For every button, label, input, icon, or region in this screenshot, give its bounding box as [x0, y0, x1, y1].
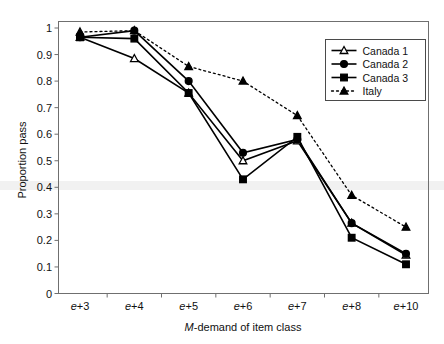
x-axis-title: M-demand of item class: [185, 321, 302, 333]
legend-label: Canada 3: [363, 72, 409, 84]
x-tick-label: e+10: [394, 300, 419, 312]
y-tick-label: 0.6: [37, 128, 52, 140]
y-tick-label: 0.8: [37, 75, 52, 87]
data-point-canada-2: [348, 220, 355, 227]
x-tick-label: e+7: [288, 300, 307, 312]
highlight-band: [0, 181, 444, 190]
x-tick-label: e+6: [234, 300, 253, 312]
x-tick-label: e+4: [125, 300, 144, 312]
x-tick-label: e+8: [342, 300, 361, 312]
chart-figure: 00.10.20.30.40.50.60.70.80.91 e+3e+4e+5e…: [0, 0, 444, 344]
data-point-canada-3: [403, 261, 410, 268]
y-tick-label: 0.5: [37, 155, 52, 167]
x-tick-label: e+3: [71, 300, 90, 312]
legend-marker-filled-circle: [341, 61, 348, 68]
legend: Canada 1Canada 2Canada 3Italy: [326, 40, 426, 101]
y-tick-label: 0.7: [37, 102, 52, 114]
legend-label: Canada 1: [363, 45, 409, 57]
y-tick-label: 0.9: [37, 49, 52, 61]
line-chart: 00.10.20.30.40.50.60.70.80.91 e+3e+4e+5e…: [0, 0, 444, 344]
data-point-canada-2: [240, 149, 247, 156]
y-tick-label: 1: [46, 22, 52, 34]
data-point-canada-3: [348, 234, 355, 241]
data-point-canada-3: [294, 134, 301, 141]
data-point-canada-2: [403, 250, 410, 257]
y-axis-title: Proportion pass: [16, 121, 28, 199]
y-tick-label: 0.1: [37, 261, 52, 273]
data-point-canada-3: [131, 35, 138, 42]
data-point-canada-3: [240, 176, 247, 183]
legend-label: Canada 2: [363, 58, 409, 70]
y-tick-label: 0.3: [37, 208, 52, 220]
y-tick-label: 0.2: [37, 234, 52, 246]
y-tick-label: 0.4: [37, 181, 52, 193]
x-tick-label: e+5: [179, 300, 198, 312]
y-tick-label: 0: [46, 288, 52, 300]
legend-marker-filled-square: [341, 74, 348, 81]
data-point-canada-3: [185, 90, 192, 97]
data-point-canada-2: [185, 78, 192, 85]
legend-label: Italy: [363, 85, 383, 97]
